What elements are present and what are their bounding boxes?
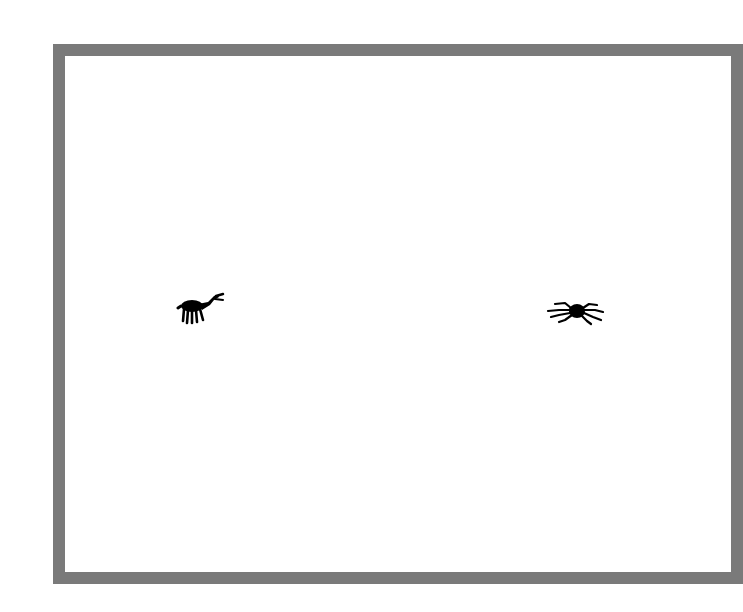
- game-arena-frame: [53, 44, 743, 584]
- ant-icon[interactable]: ant creature: [176, 290, 226, 326]
- spider-icon[interactable]: spider creature: [545, 295, 609, 327]
